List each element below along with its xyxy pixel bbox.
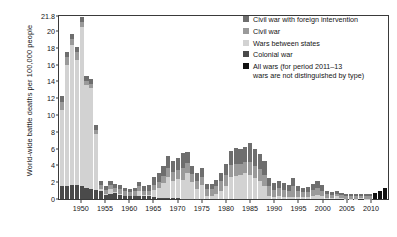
bar-segment (190, 182, 194, 199)
legend-swatch-icon (243, 63, 249, 69)
bar-1962 (137, 16, 141, 199)
bar-1957 (113, 16, 117, 199)
bar-segment (253, 149, 257, 167)
bar-segment (219, 173, 223, 181)
bar-1978 (214, 16, 218, 199)
x-tick-label: 2010 (363, 204, 379, 213)
x-tick-mark (322, 199, 323, 203)
bar-segment (65, 65, 69, 186)
legend-swatch-icon (243, 40, 249, 46)
x-tick-mark (250, 199, 251, 203)
bar-segment (200, 168, 204, 176)
legend-swatch-icon (243, 28, 249, 34)
bar-segment (65, 186, 69, 199)
x-tick-label: 1950 (73, 204, 89, 213)
bar-segment (166, 198, 170, 199)
y-tick-mark (56, 64, 60, 65)
bar-segment (282, 197, 286, 199)
bar-segment (219, 181, 223, 191)
bar-segment (65, 57, 69, 65)
legend-label: Civil war (253, 27, 280, 36)
bar-segment (238, 149, 242, 163)
bar-segment (238, 175, 242, 199)
bar-1968 (166, 16, 170, 199)
bar-2009 (364, 16, 368, 199)
bar-segment (229, 151, 233, 165)
bar-segment (291, 186, 295, 198)
bar-segment (205, 189, 209, 197)
bar-2012 (378, 16, 382, 199)
bar-segment (70, 45, 74, 184)
bar-segment (161, 166, 165, 175)
bar-1950 (80, 16, 84, 199)
bar-segment (181, 153, 185, 167)
legend-item: Civil war (243, 27, 364, 36)
bar-segment (166, 177, 170, 198)
bar-1970 (176, 16, 180, 199)
bar-segment (214, 194, 218, 199)
bar-1973 (190, 16, 194, 199)
y-tick-mark (56, 148, 60, 149)
y-tick-mark (56, 47, 60, 48)
bar-1948 (70, 16, 74, 199)
bar-segment (133, 196, 137, 199)
bar-segment (152, 190, 156, 198)
x-tick-mark (371, 199, 372, 203)
bar-1972 (185, 16, 189, 199)
bar-segment (378, 191, 382, 199)
bar-1965 (152, 16, 156, 199)
bar-segment (176, 158, 180, 170)
bar-segment (200, 185, 204, 198)
bar-1946 (60, 16, 64, 199)
bar-2013 (383, 16, 387, 199)
y-tick-mark (56, 16, 60, 17)
x-tick-mark (225, 199, 226, 203)
bar-segment (80, 27, 84, 186)
bar-segment (219, 191, 223, 199)
bar-1952 (89, 16, 93, 199)
bar-segment (258, 181, 262, 199)
bar-segment (335, 196, 339, 199)
bar-segment (94, 190, 98, 199)
x-tick-label: 1980 (218, 204, 234, 213)
x-tick-label: 2005 (339, 204, 355, 213)
y-tick-mark (56, 199, 60, 200)
bar-segment (224, 175, 228, 186)
bar-segment (89, 88, 93, 189)
bar-segment (248, 143, 252, 162)
bar-segment (282, 190, 286, 198)
bar-segment (224, 186, 228, 199)
bar-segment (359, 198, 363, 199)
bar-segment (258, 154, 262, 169)
legend-swatch-icon (243, 51, 249, 57)
bar-segment (166, 168, 170, 177)
legend-label: Civil war with foreign intervention (253, 15, 358, 24)
bar-segment (315, 181, 319, 189)
bar-segment (181, 180, 185, 198)
bar-segment (287, 197, 291, 199)
bar-segment (277, 196, 281, 199)
bar-segment (282, 183, 286, 190)
bar-1983 (238, 16, 242, 199)
bar-segment (272, 190, 276, 198)
legend-swatch-icon (243, 16, 249, 22)
bar-segment (142, 196, 146, 199)
bar-1954 (99, 16, 103, 199)
bar-segment (234, 164, 238, 176)
bar-segment (190, 166, 194, 174)
bar-segment (195, 181, 199, 189)
bar-segment (75, 52, 79, 60)
bar-segment (373, 193, 377, 199)
bar-segment (70, 185, 74, 199)
bar-segment (243, 147, 247, 162)
bar-segment (238, 164, 242, 175)
bar-segment (75, 185, 79, 199)
bar-segment (262, 186, 266, 199)
y-tick-mark (56, 31, 60, 32)
bar-1979 (219, 16, 223, 199)
bar-segment (210, 189, 214, 197)
bar-segment (205, 196, 209, 199)
bar-segment (123, 196, 127, 199)
battle-deaths-bar-chart: World-wide battle deaths per 100,000 peo… (0, 0, 397, 237)
bar-segment (243, 173, 247, 199)
